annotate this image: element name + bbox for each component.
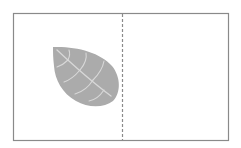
symmetry-diagram bbox=[0, 0, 241, 148]
frame-border bbox=[14, 14, 229, 141]
diagram-svg bbox=[0, 0, 241, 148]
